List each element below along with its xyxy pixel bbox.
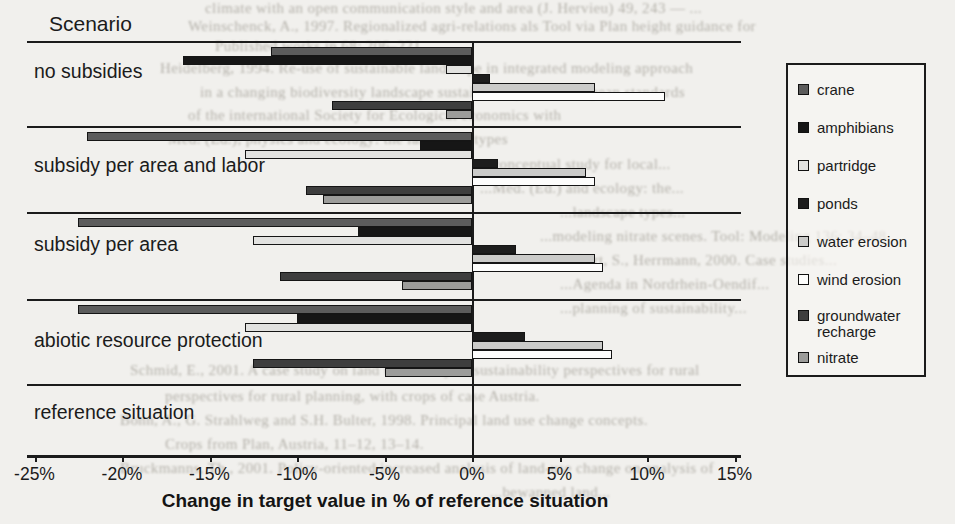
bleed-text-fragment: ...Agenda in Nordrhein-Oendif... (560, 276, 769, 293)
category-label-no-subsidies: no subsidies (34, 60, 142, 83)
legend-item-amphibians: amphibians (798, 120, 917, 136)
bar-partridge-abiotic-resource-protection (245, 323, 473, 332)
bar-amphibians-subsidy-per-area (358, 227, 472, 236)
x-axis-tick (122, 455, 124, 462)
x-axis-tick (472, 455, 474, 462)
x-axis-tick (297, 455, 299, 462)
category-label-subsidy-per-area: subsidy per area (34, 233, 178, 256)
bar-partridge-subsidy-per-area-and-labor (245, 150, 473, 159)
legend-label: partridge (817, 158, 917, 174)
x-axis-tick (385, 455, 387, 462)
bleed-text-fragment: climate with an open communication style… (205, 0, 702, 17)
bar-ponds-no-subsidies (472, 74, 490, 83)
bar-nitrate-abiotic-resource-protection (385, 368, 473, 377)
x-tick-label--20-: -20% (102, 464, 143, 485)
x-axis-tick (210, 455, 212, 462)
scanned-figure-page: climate with an open communication style… (0, 0, 955, 524)
legend-swatch-water-erosion (798, 236, 809, 247)
bar-water-erosion-abiotic-resource-protection (472, 341, 603, 350)
bar-groundwater-recharge-subsidy-per-area-and-labor (306, 186, 472, 195)
x-tick-label-10-: 10% (629, 464, 664, 485)
plot-top-border (27, 41, 741, 43)
legend-item-partridge: partridge (798, 158, 917, 174)
bleed-text-fragment: Crops from Plan, Austria, 11–12, 13–14. (165, 436, 424, 453)
chart-legend: craneamphibianspartridgepondswater erosi… (786, 63, 926, 377)
x-tick-label-0-: 0% (459, 464, 484, 485)
group-separator-line (27, 299, 741, 301)
x-tick-label--5-: -5% (369, 464, 400, 485)
category-label-abiotic-resource-protection: abiotic resource protection (34, 329, 263, 352)
legend-label: water erosion (817, 234, 917, 250)
legend-item-groundwater-recharge: groundwater recharge (798, 308, 917, 340)
bar-ponds-subsidy-per-area-and-labor (472, 159, 498, 168)
x-axis-tick (35, 455, 37, 462)
bar-nitrate-subsidy-per-area-and-labor (323, 195, 472, 204)
legend-item-crane: crane (798, 82, 917, 98)
legend-label: wind erosion (817, 272, 917, 288)
legend-label: ponds (817, 196, 917, 212)
bar-crane-subsidy-per-area (78, 218, 472, 227)
x-axis-title: Change in target value in % of reference… (35, 490, 735, 512)
category-label-subsidy-per-area-and-labor: subsidy per area and labor (34, 154, 265, 177)
bar-wind-erosion-abiotic-resource-protection (472, 350, 612, 359)
bar-amphibians-no-subsidies (183, 56, 472, 65)
bleed-text-fragment: perspectives for rural planning, with cr… (165, 388, 540, 405)
bar-water-erosion-subsidy-per-area-and-labor (472, 168, 586, 177)
bar-partridge-no-subsidies (446, 65, 472, 74)
bleed-text-fragment: Weinschenck, A., 1997. Regionalized agri… (188, 18, 756, 35)
legend-item-water-erosion: water erosion (798, 234, 917, 250)
legend-swatch-groundwater-recharge (798, 310, 809, 321)
bar-wind-erosion-subsidy-per-area-and-labor (472, 177, 595, 186)
legend-label: crane (817, 82, 917, 98)
legend-swatch-ponds (798, 198, 809, 209)
bar-wind-erosion-no-subsidies (472, 92, 665, 101)
bar-groundwater-recharge-no-subsidies (332, 101, 472, 110)
legend-swatch-partridge (798, 160, 809, 171)
bar-water-erosion-no-subsidies (472, 83, 595, 92)
bar-water-erosion-subsidy-per-area (472, 254, 595, 263)
bar-amphibians-subsidy-per-area-and-labor (420, 141, 473, 150)
group-separator-line (27, 212, 741, 214)
bar-amphibians-abiotic-resource-protection (297, 314, 472, 323)
bar-nitrate-subsidy-per-area (402, 281, 472, 290)
chart-title: Scenario (49, 12, 132, 36)
x-axis-tick (647, 455, 649, 462)
bar-partridge-subsidy-per-area (253, 236, 472, 245)
legend-label: nitrate (817, 350, 917, 366)
x-tick-label--15-: -15% (189, 464, 230, 485)
legend-label: groundwater recharge (817, 308, 917, 340)
bleed-text-fragment: ...planning of sustainability... (560, 300, 747, 317)
bar-wind-erosion-subsidy-per-area (472, 263, 603, 272)
legend-item-nitrate: nitrate (798, 350, 917, 366)
bar-crane-subsidy-per-area-and-labor (87, 132, 472, 141)
x-tick-label-15-: 15% (717, 464, 752, 485)
x-axis-tick (560, 455, 562, 462)
group-separator-line (27, 126, 741, 128)
legend-item-wind-erosion: wind erosion (798, 272, 917, 288)
legend-swatch-crane (798, 84, 809, 95)
x-tick-label-5-: 5% (547, 464, 572, 485)
legend-item-ponds: ponds (798, 196, 917, 212)
bar-crane-abiotic-resource-protection (78, 305, 472, 314)
x-axis-tick (735, 455, 737, 462)
bleed-text-fragment: of the international Society for Ecologi… (188, 107, 562, 124)
x-tick-label--25-: -25% (14, 464, 55, 485)
x-tick-label--10-: -10% (277, 464, 318, 485)
bleed-text-fragment: Bonn, A., G. Strahlweg and S.H. Bulter, … (120, 412, 648, 429)
legend-swatch-amphibians (798, 122, 809, 133)
legend-swatch-nitrate (798, 352, 809, 363)
bar-crane-no-subsidies (271, 47, 472, 56)
legend-swatch-wind-erosion (798, 274, 809, 285)
legend-label: amphibians (817, 120, 917, 136)
bar-groundwater-recharge-subsidy-per-area (280, 272, 473, 281)
category-label-reference-situation: reference situation (34, 401, 194, 424)
bar-groundwater-recharge-abiotic-resource-protection (253, 359, 472, 368)
bar-ponds-subsidy-per-area (472, 245, 516, 254)
bar-nitrate-no-subsidies (446, 110, 472, 119)
group-separator-line (27, 384, 741, 386)
bar-ponds-abiotic-resource-protection (472, 332, 525, 341)
